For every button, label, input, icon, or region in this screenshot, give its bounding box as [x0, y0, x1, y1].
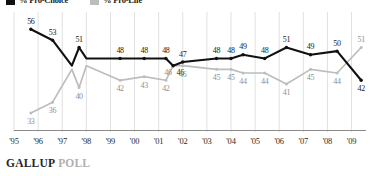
- data-point-label: 45: [227, 73, 235, 82]
- data-point-label: 49: [239, 42, 247, 51]
- data-point-label: 48: [116, 46, 124, 55]
- data-point-label: 50: [333, 39, 341, 48]
- data-point: [78, 86, 81, 89]
- data-point: [360, 46, 363, 49]
- data-point-label: 40: [75, 92, 83, 101]
- x-axis-tick-label: '03: [202, 136, 211, 146]
- data-point: [229, 57, 232, 60]
- legend-swatch-icon: [6, 0, 15, 5]
- legend-item-label: % Pro-Life: [103, 0, 142, 5]
- chart-svg: 5653514848484647484849485149504233364042…: [0, 12, 377, 134]
- data-point-label: 49: [307, 42, 315, 51]
- data-point: [143, 75, 146, 78]
- x-axis-tick-label: '09: [347, 136, 356, 146]
- chart-attribution: GALLUP POLL: [6, 157, 90, 169]
- data-point: [164, 57, 167, 60]
- chart-legend: % Pro-Choice% Pro-Life: [0, 0, 377, 10]
- data-point: [285, 46, 288, 49]
- data-point: [181, 60, 184, 63]
- data-point: [77, 46, 80, 49]
- data-point: [29, 28, 32, 31]
- chart-x-axis: '95'96'97'98'99'00'01'02'03'04'05'06'07'…: [0, 130, 377, 152]
- data-point-label: 36: [49, 106, 57, 115]
- data-point-label: 44: [261, 77, 269, 86]
- data-point-label: 45: [213, 73, 221, 82]
- data-point-label: 48: [261, 46, 269, 55]
- data-point: [51, 101, 54, 104]
- data-point-label: 46: [164, 68, 172, 77]
- data-point-label: 48: [227, 46, 235, 55]
- data-point-label: 42: [162, 84, 170, 93]
- data-point-label: 48: [162, 46, 170, 55]
- data-point: [164, 79, 167, 82]
- chart-plot-area: 5653514848484647484849485149504233364042…: [0, 12, 377, 134]
- data-point-label: 46: [179, 70, 187, 79]
- data-point-label: 48: [140, 46, 148, 55]
- data-point: [336, 72, 339, 75]
- data-point: [242, 72, 245, 75]
- data-point: [29, 112, 32, 115]
- data-point: [215, 68, 218, 71]
- x-axis-tick-label: '01: [154, 136, 163, 146]
- data-point-label: 44: [333, 77, 341, 86]
- data-point-label: 53: [49, 28, 57, 37]
- chart-point-labels: 5653514848484647484849485149504233364042…: [27, 17, 365, 126]
- data-point: [142, 57, 145, 60]
- legend-item-label: % Pro-Choice: [19, 0, 68, 5]
- data-point: [359, 79, 362, 82]
- data-point-label: 42: [116, 84, 124, 93]
- data-point: [335, 49, 338, 52]
- data-point: [309, 68, 312, 71]
- data-point: [51, 39, 54, 42]
- x-axis-tick-label: '04: [226, 136, 235, 146]
- poll-brand-label: POLL: [58, 157, 90, 169]
- data-point-label: 41: [283, 88, 291, 97]
- x-axis-tick-label: '08: [323, 136, 332, 146]
- data-point: [241, 53, 244, 56]
- data-point: [181, 64, 184, 67]
- data-point-label: 45: [307, 73, 315, 82]
- data-point: [263, 57, 266, 60]
- data-point-label: 48: [213, 46, 221, 55]
- data-point-label: 47: [179, 50, 187, 59]
- x-axis-tick-label: '05: [250, 136, 259, 146]
- x-axis-tick-label: '95: [9, 136, 18, 146]
- data-point: [215, 57, 218, 60]
- data-point: [171, 64, 174, 67]
- data-point-label: 42: [357, 84, 365, 93]
- data-point-label: 51: [283, 35, 291, 44]
- data-point-label: 51: [75, 35, 83, 44]
- data-point: [285, 82, 288, 85]
- x-axis-tick-label: '07: [299, 136, 308, 146]
- data-point: [229, 68, 232, 71]
- data-point-label: 56: [27, 17, 35, 26]
- data-point-label: 51: [357, 35, 365, 44]
- x-axis-tick-label: '06: [274, 136, 283, 146]
- x-axis-tick-label: '00: [130, 136, 139, 146]
- data-point-label: 43: [140, 81, 148, 90]
- data-point-label: 44: [239, 77, 247, 86]
- x-axis-tick-label: '96: [33, 136, 42, 146]
- legend-swatch-icon: [90, 0, 99, 5]
- data-point: [309, 53, 312, 56]
- data-point: [118, 57, 121, 60]
- data-point-label: 33: [27, 117, 35, 126]
- x-axis-line: [14, 130, 366, 131]
- legend-item: % Pro-Choice: [6, 0, 68, 5]
- x-axis-tick-label: '02: [178, 136, 187, 146]
- x-axis-tick-label: '99: [106, 136, 115, 146]
- data-point: [119, 79, 122, 82]
- x-axis-tick-label: '97: [58, 136, 67, 146]
- data-point: [263, 72, 266, 75]
- x-axis-tick-label: '98: [82, 136, 91, 146]
- legend-item: % Pro-Life: [90, 0, 142, 5]
- gallup-brand-label: GALLUP: [6, 157, 55, 169]
